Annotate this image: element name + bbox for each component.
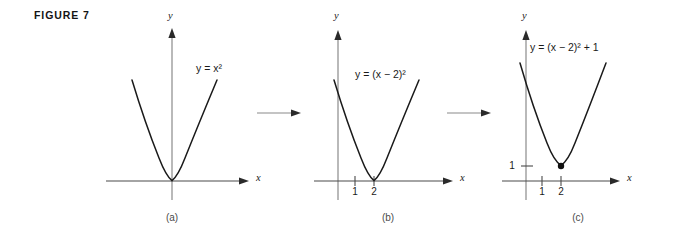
panel-b-x-tick-label-1: 1	[349, 186, 361, 197]
panel-a-x-axis-label: x	[256, 172, 261, 183]
panel-c: y x 1 2 1	[490, 0, 680, 239]
panel-b-y-axis	[334, 30, 341, 200]
panel-c-equation-label: y = (x − 2)² + 1	[530, 41, 599, 53]
panel-c-vertex-dot	[558, 163, 564, 169]
panel-a-equation-label: y = x²	[196, 62, 222, 74]
panel-c-x-tick-label-2: 2	[555, 186, 567, 197]
panel-b-x-axis	[314, 177, 453, 184]
panel-c-y-axis	[522, 30, 529, 200]
panel-c-x-axis-label: x	[627, 172, 632, 183]
panel-c-y-tick-label-1: 1	[506, 160, 518, 171]
panel-b-equation-label: y = (x − 2)²	[355, 68, 406, 80]
panel-a-y-axis	[168, 28, 175, 200]
panel-b-x-tick-label-2: 2	[368, 186, 380, 197]
panel-c-curve	[520, 63, 606, 165]
panel-b-y-axis-label: y	[334, 10, 339, 21]
figure-root: FIGURE 7 y x y = x² (a)	[0, 0, 690, 239]
panel-b-caption: (b)	[368, 212, 408, 223]
figure-number-label: FIGURE 7	[34, 9, 90, 21]
panel-b-x-axis-label: x	[460, 172, 465, 183]
panel-a-curve	[132, 80, 217, 181]
panel-a-caption: (a)	[152, 212, 192, 223]
panel-a-y-axis-label: y	[168, 10, 173, 21]
panel-b-curve	[334, 80, 419, 181]
panel-c-x-tick-label-1: 1	[536, 186, 548, 197]
transition-arrow-1	[255, 104, 305, 122]
panel-a-x-axis	[106, 177, 249, 184]
panel-c-y-axis-label: y	[522, 10, 527, 21]
panel-a-graph	[100, 0, 275, 200]
transition-arrow-2	[445, 104, 495, 122]
panel-c-graph	[490, 0, 680, 210]
panel-a: y x	[100, 0, 275, 239]
panel-c-caption: (c)	[558, 212, 598, 223]
